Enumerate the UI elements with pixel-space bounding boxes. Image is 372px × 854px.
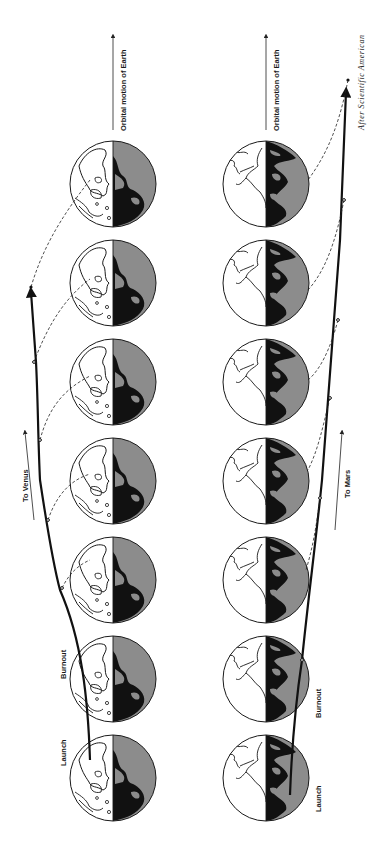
globe-venus-4: [70, 438, 156, 524]
trajectory-diagram: Orbital motion of Earth Orbital motion o…: [0, 0, 372, 854]
credit-label: After Scientific American: [357, 34, 366, 130]
globe-mars-4: [223, 438, 309, 524]
to-mars-label: To Mars: [343, 470, 352, 498]
venus-launch-label: Launch: [59, 739, 68, 766]
mars-launch-label: Launch: [314, 785, 323, 812]
venus-orbital-motion-label: Orbital motion of Earth: [119, 49, 128, 131]
venus-burnout-label: Burnout: [59, 650, 68, 679]
globe-mars-5: [223, 537, 309, 623]
diagram-canvas: [0, 0, 372, 854]
mars-panel: [223, 36, 350, 821]
globe-mars-3: [223, 339, 309, 425]
globe-venus-3: [70, 339, 156, 425]
globe-mars-1: [223, 141, 309, 227]
globe-mars-2: [223, 240, 309, 326]
to-mars-arrow: [335, 432, 342, 530]
globe-mars-7: [223, 735, 309, 821]
venus-panel: [25, 36, 156, 821]
globe-venus-2: [70, 240, 156, 326]
mars-burnout-label: Burnout: [314, 689, 323, 718]
globe-venus-1: [70, 141, 156, 227]
globe-venus-7: [70, 735, 156, 821]
mars-orbital-motion-label: Orbital motion of Earth: [272, 49, 281, 131]
to-venus-label: To Venus: [21, 469, 30, 502]
globe-venus-5: [70, 537, 156, 623]
mars-dashed-tracks: [306, 80, 348, 570]
